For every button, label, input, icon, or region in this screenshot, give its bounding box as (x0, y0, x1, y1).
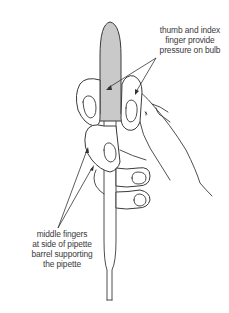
knuckle-fold (94, 170, 104, 194)
annotation-line: thumb and index (152, 25, 228, 35)
annotation-thumb-index: thumb and index finger provide pressure … (152, 25, 228, 55)
middle-finger (85, 125, 120, 172)
annotation-line: finger provide (152, 35, 228, 45)
annotation-line: pressure on bulb (152, 45, 228, 55)
little-finger (116, 122, 170, 209)
annotation-line: the pipette (14, 259, 110, 269)
pointer-bottom (58, 147, 94, 228)
index-finger (121, 76, 142, 131)
ring-finger (116, 168, 150, 187)
annotation-line: at side of pipette (14, 239, 110, 249)
annotation-middle-fingers: middle fingers at side of pipette barrel… (14, 229, 110, 269)
annotation-line: middle fingers (14, 229, 110, 239)
thumb (76, 79, 100, 126)
annotation-line: barrel supporting (14, 249, 110, 259)
